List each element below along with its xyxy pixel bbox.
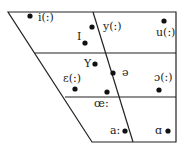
label-a: a: [110,124,120,137]
dot-small-i [82,40,87,45]
dot-oe [104,89,109,94]
dot-y [89,24,94,29]
label-open-o: ɔ(:) [154,71,172,84]
dot-schwa [110,70,115,75]
dot-a [122,128,127,133]
dot-small-y [92,61,97,66]
label-small-y: Y [83,57,92,70]
label-u: u(:) [156,26,175,39]
label-script-a: ɑ [155,124,162,137]
dot-open-o [156,87,161,92]
label-small-i: I [77,30,81,43]
label-oe: œ: [94,97,109,110]
label-i: i(:) [38,11,54,24]
dot-script-a [165,128,170,133]
label-y: y(:) [102,20,122,33]
dot-epsilon [72,86,77,91]
label-schwa: ə [122,66,129,79]
dot-i [27,13,32,18]
label-epsilon: ε(:) [63,72,81,85]
vowel-trapezoid [8,12,176,142]
vowel-chart: i(:) y(:) u(:) I Y ə ε(:) ɔ(:) œ: a: ɑ [0,0,187,153]
dot-u [161,18,166,23]
